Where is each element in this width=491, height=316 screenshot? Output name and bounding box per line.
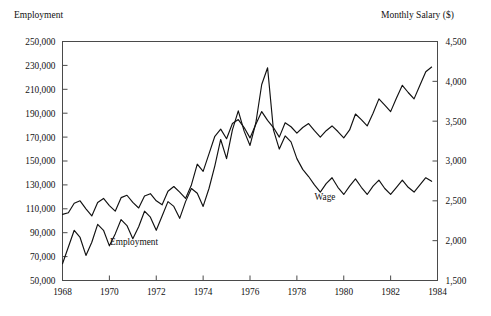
right-tick-label: 2,000 (446, 236, 467, 246)
left-tick-label: 170,000 (25, 133, 56, 143)
x-tick-label: 1980 (334, 287, 353, 297)
x-axis-tick-labels: 196819701972197419761978198019821984 (53, 287, 447, 297)
right-tick-label: 3,000 (446, 156, 467, 166)
chart-container: Employment Monthly Salary ($) 50,00070,0… (0, 0, 491, 316)
left-tick-label: 90,000 (30, 228, 56, 238)
right-tick-label: 3,500 (446, 117, 467, 127)
left-tick-label: 130,000 (25, 180, 56, 190)
left-tick-label: 190,000 (25, 109, 56, 119)
right-tick-label: 1,500 (446, 276, 467, 286)
x-tick-label: 1976 (241, 287, 260, 297)
series-line-wage (63, 67, 432, 216)
left-tick-label: 110,000 (26, 204, 56, 214)
plot-area: 50,00070,00090,000110,000130,000150,0001… (0, 0, 491, 316)
x-tick-label: 1984 (428, 287, 447, 297)
right-tick-label: 2,500 (446, 196, 467, 206)
x-tick-label: 1974 (194, 287, 213, 297)
left-axis-tick-labels: 50,00070,00090,000110,000130,000150,0001… (25, 37, 56, 286)
left-tick-label: 250,000 (25, 37, 56, 47)
x-tick-label: 1978 (288, 287, 307, 297)
x-tick-label: 1972 (147, 287, 166, 297)
left-tick-label: 150,000 (25, 156, 56, 166)
left-tick-label: 210,000 (25, 85, 56, 95)
right-tick-label: 4,000 (446, 77, 467, 87)
left-tick-label: 50,000 (30, 276, 56, 286)
right-tick-label: 4,500 (446, 37, 467, 47)
left-tick-label: 70,000 (30, 252, 56, 262)
x-tick-label: 1968 (53, 287, 72, 297)
annotation-wage: Wage (315, 192, 336, 202)
x-tick-label: 1970 (100, 287, 119, 297)
series-annotations: EmploymentWage (110, 192, 336, 246)
left-tick-label: 230,000 (25, 61, 56, 71)
series-line-employment (63, 68, 432, 264)
right-axis-tick-labels: 1,5002,0002,5003,0003,5004,0004,500 (446, 37, 467, 286)
data-series-group (63, 67, 432, 264)
x-tick-label: 1982 (381, 287, 400, 297)
annotation-employment: Employment (110, 237, 158, 247)
